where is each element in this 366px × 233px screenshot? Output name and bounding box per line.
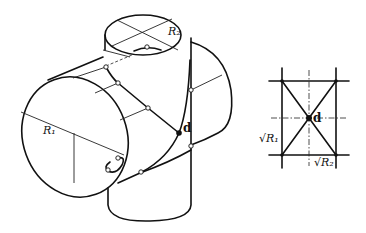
- construction-view: d √R₁ √R₂: [259, 68, 349, 169]
- label-sqrt-r1: √R₁: [259, 132, 279, 145]
- label-d-left: d: [183, 121, 192, 135]
- point-loop-1: [116, 156, 120, 160]
- back-generator-line: [191, 75, 222, 90]
- corner-bottom-left: [280, 153, 284, 157]
- generator-line-1: [73, 67, 106, 78]
- horizontal-cylinder-end: [5, 62, 144, 212]
- label-d-right: d: [313, 111, 322, 125]
- point-c: [146, 106, 150, 110]
- top-cross-line-2: [112, 19, 172, 46]
- point-right-upper: [189, 88, 193, 92]
- point-b: [116, 81, 120, 85]
- corner-top-left: [280, 79, 284, 83]
- point-a: [104, 65, 108, 69]
- point-loop-2: [106, 168, 110, 172]
- intersection-curve: [106, 67, 179, 133]
- label-r2: R₂: [167, 25, 181, 38]
- point-right-lower: [189, 144, 193, 148]
- label-r1: R₁: [42, 124, 56, 137]
- back-cylinder-bulge: [191, 42, 232, 145]
- r1-radius-line: [21, 112, 124, 155]
- isometric-view: R₂ R₁ d: [5, 15, 231, 221]
- pipe-intersection-diagram: R₂ R₁ d d √R₁ √R₂: [0, 0, 366, 233]
- point-d-construction: [306, 115, 312, 121]
- label-sqrt-r2: √R₂: [314, 156, 334, 169]
- point-e: [139, 170, 143, 174]
- horizontal-cylinder-bottom-edge: [118, 150, 191, 183]
- point-top-inner: [145, 45, 149, 49]
- corner-top-right: [334, 79, 338, 83]
- corner-bottom-right: [334, 153, 338, 157]
- point-d: [176, 130, 182, 136]
- generator-line-3: [120, 108, 148, 120]
